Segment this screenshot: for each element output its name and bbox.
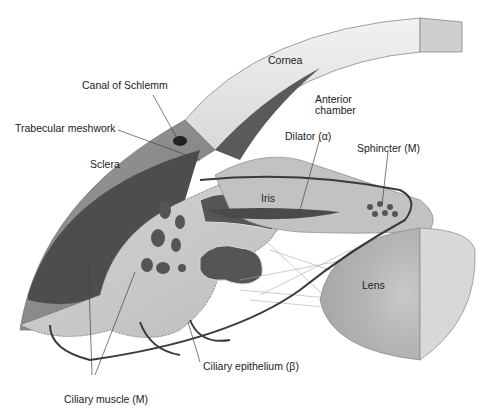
label-sphincter: Sphincter (M) <box>357 142 420 154</box>
lens <box>320 228 475 360</box>
label-ciliary-epithelium: Ciliary epithelium (β) <box>203 360 299 372</box>
eye-anatomy-diagram <box>0 0 489 414</box>
label-cornea: Cornea <box>268 54 302 66</box>
label-trabecular-meshwork: Trabecular meshwork <box>15 122 116 134</box>
label-canal-of-schlemm: Canal of Schlemm <box>82 79 168 91</box>
label-dilator: Dilator (α) <box>285 130 331 142</box>
label-sclera: Sclera <box>90 158 120 170</box>
label-chamber: chamber <box>315 104 356 116</box>
label-lens: Lens <box>362 279 385 291</box>
label-ciliary-muscle: Ciliary muscle (M) <box>64 393 148 405</box>
canal-of-schlemm <box>173 136 187 146</box>
label-iris: Iris <box>261 192 275 204</box>
